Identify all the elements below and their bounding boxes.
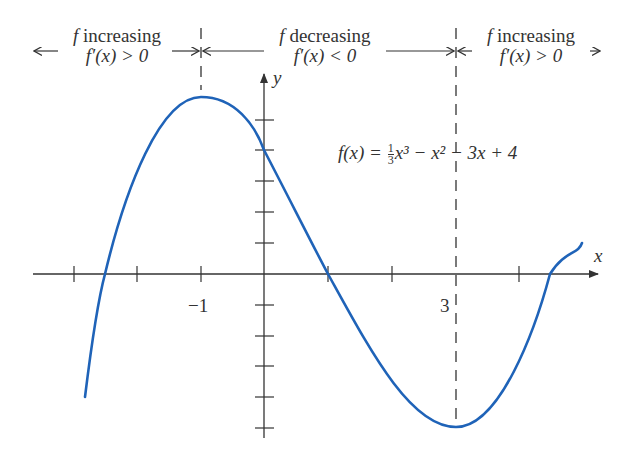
fraction-denominator: 3: [388, 155, 394, 166]
fraction-one-third: 1 3: [388, 143, 394, 166]
x-axis-label: x: [594, 246, 602, 266]
behavior-word: increasing: [83, 25, 161, 46]
function-diagram: f increasing f′(x) > 0 f decreasing f′(x…: [0, 0, 635, 457]
derivative-condition: f′(x) < 0: [264, 46, 386, 66]
graph-canvas: [0, 0, 635, 457]
y-axis: [255, 74, 274, 438]
f-symbol: f: [279, 25, 284, 46]
behavior-word: increasing: [497, 25, 575, 46]
behavior-word: decreasing: [289, 25, 370, 46]
equation-lhs: f(x) =: [338, 142, 382, 163]
f-symbol: f: [487, 25, 492, 46]
region-label-left: f increasing f′(x) > 0: [62, 26, 172, 66]
f-symbol: f: [73, 25, 78, 46]
tick-label-3: 3: [440, 296, 450, 316]
derivative-condition: f′(x) > 0: [62, 46, 172, 66]
equation-rhs: x³ − x² − 3x + 4: [395, 142, 518, 163]
derivative-condition: f′(x) > 0: [472, 46, 590, 66]
region-label-middle: f decreasing f′(x) < 0: [264, 26, 386, 66]
tick-label-minus-1: −1: [188, 296, 208, 316]
x-axis: [33, 266, 598, 282]
y-axis-label: y: [273, 68, 281, 88]
region-label-right: f increasing f′(x) > 0: [472, 26, 590, 66]
function-equation: f(x) = 1 3 x³ − x² − 3x + 4: [338, 143, 517, 166]
